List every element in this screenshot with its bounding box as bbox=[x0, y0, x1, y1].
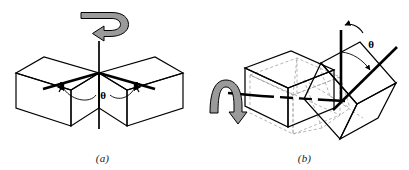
right-box bbox=[99, 57, 183, 126]
caption-b: (b) bbox=[200, 152, 409, 164]
curved-rotation-arrow-top bbox=[81, 13, 129, 42]
top-curved-arrow bbox=[345, 24, 363, 33]
caption-a: (a) bbox=[0, 152, 205, 164]
right-edge-vector bbox=[99, 73, 155, 89]
angle-arc bbox=[62, 86, 96, 100]
panel-a: θ (a) bbox=[0, 0, 205, 170]
curved-rotation-arrow-left bbox=[210, 80, 247, 124]
angle-label-theta-b: θ bbox=[368, 38, 374, 50]
panel-b: θ (b) bbox=[200, 0, 409, 170]
angle-arc-b bbox=[341, 52, 370, 70]
rotated-box bbox=[304, 42, 396, 139]
left-edge-vector bbox=[43, 73, 99, 89]
horizontal-rotation-axis-dashed bbox=[261, 96, 326, 100]
left-box bbox=[16, 57, 99, 126]
angle-label-theta: θ bbox=[100, 89, 106, 101]
figure-container: θ (a) bbox=[0, 0, 409, 170]
